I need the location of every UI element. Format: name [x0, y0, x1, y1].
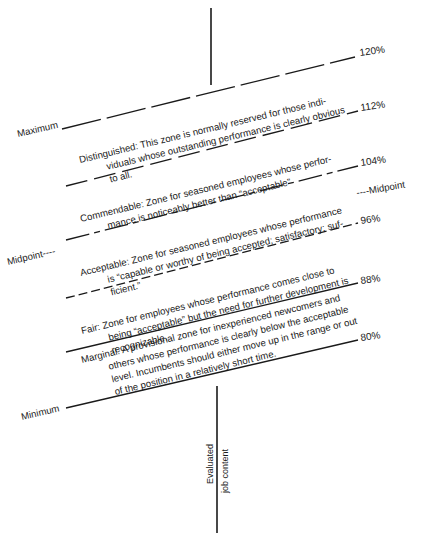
maximum-label: Maximum: [16, 119, 59, 139]
zone-acceptable-line-1: Acceptable: Zone for seasoned employees …: [79, 205, 343, 278]
percent-label-96: 96%: [360, 212, 381, 226]
zone-distinguished: Distinguished: This zone is normally res…: [78, 91, 349, 190]
salary-range-diagram: 120% 112% 104% 96% 88% 80% Maximum Minim…: [0, 0, 431, 542]
midpoint-right-label: ----Midpoint: [355, 179, 406, 198]
zone-distinguished-line-1: Distinguished: This zone is normally res…: [78, 95, 327, 165]
percent-label-120: 120%: [359, 44, 386, 58]
midpoint-left-label: Midpoint----: [6, 245, 56, 267]
percent-label-112: 112%: [360, 99, 386, 113]
percent-label-80: 80%: [360, 329, 381, 343]
percent-label-88: 88%: [360, 272, 381, 286]
percent-label-104: 104%: [360, 154, 387, 168]
zone-distinguished-line-3: to all.: [108, 168, 133, 184]
minimum-label: Minimum: [20, 402, 60, 421]
axis-label-evaluated: Evaluated: [205, 444, 215, 484]
axis-label-job-content: job content: [220, 448, 230, 494]
